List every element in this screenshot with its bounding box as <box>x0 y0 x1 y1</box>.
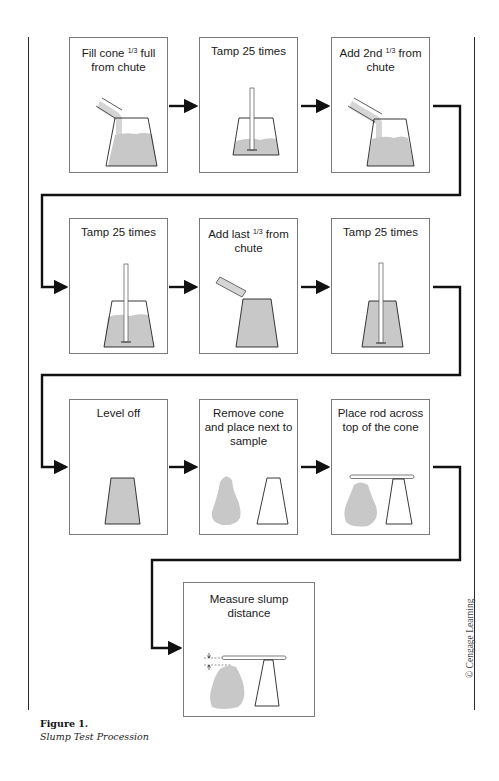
figure-caption: Figure 1. Slump Test Procession <box>40 718 149 742</box>
step-tamp-second: Tamp 25 times <box>69 218 168 354</box>
slump-measurement-illustration <box>184 583 316 718</box>
leveled-cone-illustration <box>70 400 169 536</box>
step-remove-cone: Remove cone and place next to sample <box>199 399 298 535</box>
step-add-second-third: Add 2nd 1/3 from chute <box>331 37 430 173</box>
step-fill-first-third: Fill cone 1/3 full from chute <box>69 37 168 173</box>
figure-caption-text: Slump Test Procession <box>40 731 149 742</box>
step-tamp-first: Tamp 25 times <box>199 37 298 173</box>
copyright-credit: © Cengage Learning <box>465 599 475 679</box>
figure-label: Figure 1. <box>40 718 149 729</box>
cone-pour-illustration <box>70 38 169 174</box>
rod-across-cone-illustration <box>332 400 431 536</box>
cone-pour-illustration <box>332 38 431 174</box>
step-measure-slump: Measure slump distance <box>183 582 315 717</box>
cone-pour-illustration <box>200 219 299 355</box>
tamp-rod-illustration <box>200 38 299 174</box>
tamp-rod-illustration <box>332 219 431 355</box>
tamp-rod-illustration <box>70 219 169 355</box>
step-level-off: Level off <box>69 399 168 535</box>
step-tamp-third: Tamp 25 times <box>331 218 430 354</box>
step-add-last-third: Add last 1/3 from chute <box>199 218 298 354</box>
step-place-rod: Place rod across top of the cone <box>331 399 430 535</box>
slumped-sample-illustration <box>200 400 299 536</box>
